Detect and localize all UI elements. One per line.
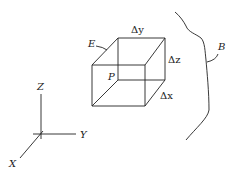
element-label: E [87,38,96,49]
boundary-curve [175,12,209,140]
point-label: P [107,71,115,82]
delta-x-label: Δx [160,90,173,101]
cube-back-face [118,38,165,80]
cube-edge [92,38,118,65]
coordinate-axes [20,94,76,158]
cube-front-face [92,65,145,106]
cube-edge [145,38,165,65]
y-axis-label: Y [80,129,88,140]
element-leader-line [96,46,107,50]
x-axis [20,131,43,158]
boundary-label: B [217,41,225,52]
delta-y-label: Δy [131,24,144,35]
x-axis-label: X [8,158,17,169]
control-volume-diagram: E Δy Δz Δx P B Z Y X [0,0,233,174]
boundary-leader-line [207,54,218,62]
delta-z-label: Δz [168,54,181,65]
cube-edge [92,80,118,106]
z-axis-label: Z [36,81,45,92]
